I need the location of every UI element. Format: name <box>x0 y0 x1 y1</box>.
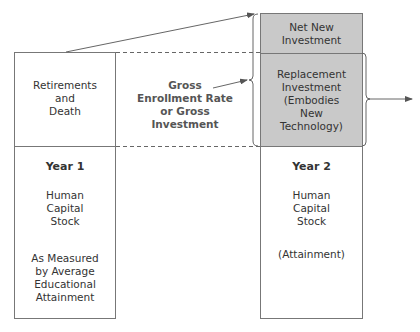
left-brace-icon <box>249 14 258 146</box>
net-new-arrow <box>66 14 254 52</box>
connectors <box>0 0 420 332</box>
gross-arrow <box>213 80 247 88</box>
